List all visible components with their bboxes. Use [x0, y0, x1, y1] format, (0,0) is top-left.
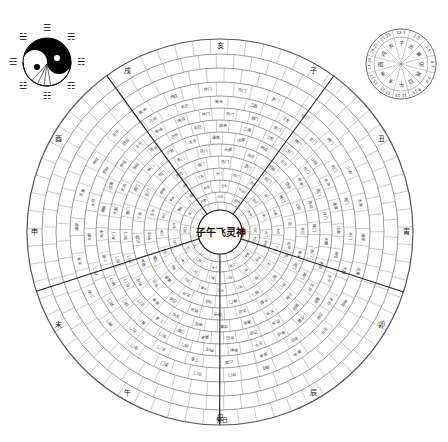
svg-text:生门: 生门: [157, 345, 167, 354]
svg-text:生门: 生门: [195, 257, 203, 265]
svg-text:甲申: 甲申: [262, 239, 268, 246]
svg-text:少府: 少府: [86, 289, 95, 299]
svg-text:休门: 休门: [201, 110, 210, 117]
svg-text:死门: 死门: [291, 261, 300, 271]
svg-text:死门: 死门: [176, 154, 186, 163]
svg-text:辰: 辰: [310, 389, 317, 397]
svg-text:甲戌: 甲戌: [194, 321, 203, 329]
svg-text:乙酉: 乙酉: [229, 262, 236, 269]
svg-text:神门: 神门: [229, 298, 238, 305]
svg-text:乙酉: 乙酉: [134, 235, 141, 243]
svg-text:癸日: 癸日: [216, 416, 228, 424]
svg-text:甲戌: 甲戌: [276, 329, 286, 338]
svg-text:辛巳: 辛巳: [161, 212, 168, 219]
svg-text:少府: 少府: [345, 165, 354, 175]
svg-text:开门: 开门: [199, 147, 208, 154]
svg-text:伤门: 伤门: [226, 275, 233, 281]
svg-text:太冲: 太冲: [98, 230, 104, 238]
svg-text:子: 子: [399, 40, 404, 46]
svg-text:丙戌: 丙戌: [251, 197, 259, 206]
svg-text:太冲: 太冲: [266, 308, 276, 317]
svg-text:太冲: 太冲: [171, 222, 177, 229]
svg-text:伤门: 伤门: [193, 371, 202, 378]
svg-text:休门: 休门: [312, 224, 318, 232]
svg-text:癸未: 癸未: [201, 334, 210, 341]
center-title: 子午飞灵神: [190, 224, 252, 239]
svg-text:☲: ☲: [9, 57, 17, 67]
svg-text:景门: 景门: [208, 275, 215, 281]
svg-text:生门: 生门: [265, 261, 273, 269]
svg-text:大都: 大都: [224, 146, 233, 153]
svg-text:太冲: 太冲: [323, 177, 332, 187]
svg-text:死门: 死门: [105, 298, 114, 308]
svg-text:己卯: 己卯: [249, 329, 258, 337]
svg-text:申: 申: [31, 227, 38, 236]
svg-text:☴: ☴: [67, 32, 75, 42]
svg-text:☱: ☱: [19, 32, 27, 42]
svg-text:景门: 景门: [271, 95, 281, 104]
svg-text:☶: ☶: [67, 81, 75, 91]
svg-text:死门: 死门: [343, 196, 351, 205]
svg-text:死门: 死门: [182, 226, 187, 232]
svg-text:壬午: 壬午: [319, 326, 329, 336]
svg-text:太白: 太白: [238, 308, 247, 316]
svg-text:景门: 景门: [124, 206, 132, 215]
svg-text:17-19: 17-19: [367, 58, 372, 70]
svg-text:涌泉: 涌泉: [212, 134, 220, 140]
svg-text:涌泉: 涌泉: [313, 295, 323, 305]
branch-hour-dial: 23-1子1-3丑3-5寅5-7卯7-9辰9-11巳11-13午13-15未15…: [366, 29, 436, 99]
svg-text:壬午: 壬午: [148, 208, 156, 217]
svg-text:癸未: 癸未: [139, 258, 148, 268]
svg-text:丙戌: 丙戌: [177, 115, 187, 123]
svg-text:惊门: 惊门: [120, 298, 130, 308]
svg-text:死门: 死门: [315, 187, 324, 197]
svg-text:戊寅: 戊寅: [336, 226, 342, 234]
svg-text:大都: 大都: [323, 237, 330, 245]
svg-text:休门: 休门: [203, 85, 211, 92]
svg-text:乙酉: 乙酉: [243, 125, 252, 133]
svg-text:太白: 太白: [119, 182, 128, 192]
svg-text:戊寅: 戊寅: [78, 188, 86, 197]
svg-text:☰: ☰: [43, 23, 51, 33]
svg-text:太白: 太白: [276, 227, 281, 233]
svg-text:太白: 太白: [89, 198, 97, 207]
svg-text:休门: 休门: [228, 372, 236, 379]
svg-text:太冲: 太冲: [182, 290, 192, 299]
svg-text:开门: 开门: [348, 232, 354, 240]
svg-text:生门: 生门: [215, 171, 221, 176]
svg-text:甲戌: 甲戌: [146, 232, 152, 240]
svg-text:癸未: 癸未: [259, 351, 269, 359]
svg-text:酉: 酉: [55, 135, 62, 143]
svg-text:少府: 少府: [287, 217, 294, 226]
svg-text:戊寅: 戊寅: [106, 181, 115, 191]
svg-text:少府: 少府: [100, 254, 108, 263]
svg-text:甲申: 甲申: [158, 186, 168, 196]
svg-text:太冲: 太冲: [75, 257, 83, 266]
svg-text:杜门: 杜门: [184, 243, 191, 251]
svg-text:太白: 太白: [217, 194, 223, 199]
svg-text:死门: 死门: [236, 284, 243, 291]
svg-text:丁亥: 丁亥: [154, 315, 164, 324]
svg-text:涌泉: 涌泉: [332, 201, 340, 210]
svg-text:未: 未: [55, 320, 62, 329]
svg-text:生门: 生门: [143, 188, 152, 198]
svg-text:癸未: 癸未: [219, 122, 227, 128]
svg-text:壬午: 壬午: [325, 274, 334, 284]
svg-text:大都: 大都: [199, 285, 207, 292]
svg-text:休门: 休门: [196, 160, 205, 168]
svg-text:戊寅: 戊寅: [354, 267, 362, 276]
svg-text:辛巳: 辛巳: [252, 235, 258, 242]
svg-text:杜门: 杜门: [122, 278, 131, 288]
svg-text:卯: 卯: [418, 62, 425, 67]
svg-text:伤门: 伤门: [221, 158, 229, 165]
svg-text:少府: 少府: [205, 299, 214, 306]
svg-text:☷: ☷: [43, 91, 51, 101]
svg-text:丁亥: 丁亥: [135, 211, 142, 220]
svg-text:神门: 神门: [108, 277, 117, 287]
svg-text:伤门: 伤门: [264, 231, 269, 237]
svg-text:乙酉: 乙酉: [225, 359, 233, 366]
svg-text:休门: 休门: [241, 267, 249, 274]
svg-text:阴谷: 阴谷: [100, 165, 109, 175]
svg-text:景门: 景门: [250, 114, 259, 122]
svg-text:甲戌: 甲戌: [333, 250, 340, 259]
